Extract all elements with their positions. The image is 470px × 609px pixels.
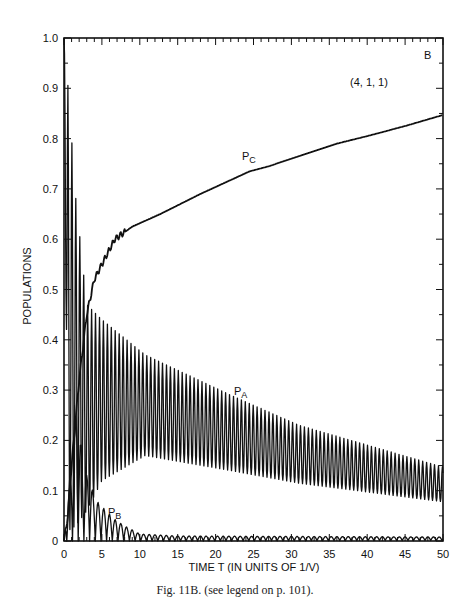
x-tick-label: 50 (437, 548, 449, 560)
x-axis-title: TIME T (IN UNITS OF 1/V) (64, 561, 444, 573)
y-tick-label: 0.3 (43, 384, 58, 396)
series-label-sub: A (241, 390, 247, 400)
y-tick-label: 0.5 (43, 284, 58, 296)
x-tick-label: 40 (361, 548, 373, 560)
figure-caption: Fig. 11B. (see legend on p. 101). (0, 583, 470, 598)
series-label-pb: PB (108, 506, 121, 518)
series-label-sub: C (249, 155, 256, 165)
x-tick-label: 10 (134, 548, 146, 560)
y-tick-label: 0.2 (43, 434, 58, 446)
x-tick-label: 0 (61, 548, 67, 560)
y-tick-label: 0.1 (43, 485, 58, 497)
series-line-pa (64, 38, 443, 530)
y-tick-label: 0 (52, 535, 58, 547)
y-tick-label: 0.7 (43, 183, 58, 195)
y-tick-label: 1.0 (43, 32, 58, 44)
x-tick-label: 30 (285, 548, 297, 560)
parameter-annotation: (4, 1, 1) (350, 76, 388, 88)
x-tick-label: 25 (247, 548, 259, 560)
series-label-sub: B (115, 511, 121, 521)
x-tick-label: 5 (99, 548, 105, 560)
series-label-pa: PA (234, 385, 247, 397)
y-tick-label: 0.4 (43, 334, 58, 346)
x-tick-label: 35 (323, 548, 335, 560)
x-tick-label: 20 (209, 548, 221, 560)
y-tick-label: 0.8 (43, 133, 58, 145)
panel-label: B (424, 49, 431, 61)
y-axis-title: POPULATIONS (21, 241, 33, 331)
chart-plot-area: 0510152025303540455000.10.20.30.40.50.60… (0, 0, 470, 609)
series-line-pc (64, 115, 442, 541)
y-tick-label: 0.9 (43, 82, 58, 94)
x-tick-label: 45 (399, 548, 411, 560)
x-tick-label: 15 (172, 548, 184, 560)
y-tick-label: 0.6 (43, 233, 58, 245)
series-label-pc: PC (242, 150, 256, 162)
